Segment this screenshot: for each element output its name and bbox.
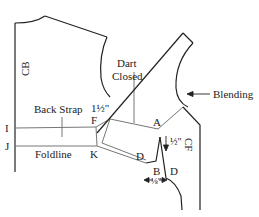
label-point-d-left: D <box>136 150 144 162</box>
back-armhole <box>101 37 110 97</box>
label-closed: Closed <box>112 70 143 82</box>
label-eighth-inch: ⅛" <box>151 176 162 186</box>
label-foldline: Foldline <box>35 148 72 160</box>
back-shoulder <box>45 16 107 37</box>
line-a-neck <box>158 107 183 129</box>
label-blending: Blending <box>213 88 254 100</box>
label-one-half: 1½" <box>91 102 109 114</box>
label-back-strap: Back Strap <box>34 103 83 115</box>
label-cf: CF <box>183 138 195 151</box>
back-neckline <box>15 16 45 23</box>
label-point-j: J <box>5 140 10 152</box>
front-shoulder <box>183 33 193 43</box>
label-cb: CB <box>19 61 31 76</box>
front-neck <box>183 107 200 210</box>
blending-arrowhead <box>187 92 193 97</box>
label-point-k: K <box>90 148 98 160</box>
dart-leg-left <box>146 137 160 163</box>
front-pattern <box>97 33 200 210</box>
pattern-diagram: CB CF Dart Closed Back Strap 1½" Blendin… <box>0 0 259 217</box>
label-point-d-right: D <box>170 165 178 177</box>
line-f-k <box>96 127 97 146</box>
label-point-i: I <box>5 122 9 134</box>
label-half-inch: ½" <box>170 136 182 147</box>
front-armhole <box>176 43 193 107</box>
line-i-f <box>15 127 96 128</box>
label-dart: Dart <box>117 57 137 69</box>
label-point-f: F <box>91 114 97 126</box>
eighth-inch-arrowhead-left <box>144 178 149 183</box>
label-point-a: A <box>153 116 161 128</box>
half-inch-arrowhead <box>164 145 169 151</box>
